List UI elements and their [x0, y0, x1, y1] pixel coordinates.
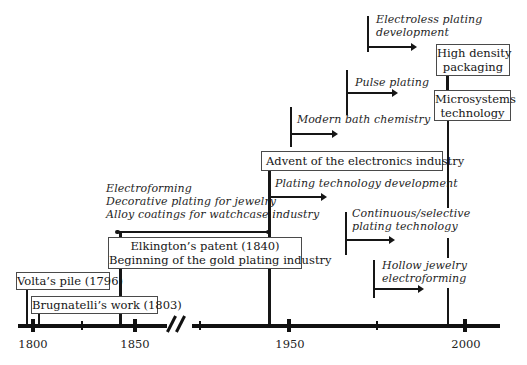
- timeline-axis: [18, 324, 500, 328]
- modern-bath-label: Modern bath chemistry: [297, 113, 430, 126]
- microsystems-technology-box: Microsystems technology: [434, 90, 511, 121]
- microsystems-box-line2: technology: [435, 106, 510, 120]
- pulse-label-line1: Pulse plating: [355, 76, 429, 89]
- electroforming-label: Electroforming Decorative plating for je…: [106, 182, 319, 221]
- axis-label-1950: 1950: [270, 337, 310, 351]
- hollow-label-line2: electroforming: [382, 272, 467, 285]
- modern-bath-label-line1: Modern bath chemistry: [297, 113, 430, 126]
- elkington-patent-box: Elkington’s patent (1840) Beginning of t…: [108, 237, 302, 269]
- axis-tick-1800: [31, 319, 35, 332]
- continuous-arrow: [346, 239, 390, 241]
- electroforming-label-line1: Electroforming: [106, 182, 319, 195]
- axis-tick-1850: [133, 319, 137, 332]
- continuous-marker-line: [345, 212, 347, 255]
- electroforming-range-start-dot: [115, 230, 120, 235]
- electroless-arrow: [368, 46, 412, 48]
- continuous-label: Continuous/selective plating technology: [352, 207, 470, 233]
- microsystems-box-line1: Microsystems: [435, 92, 510, 106]
- continuous-label-line2: plating technology: [352, 220, 470, 233]
- modern-bath-marker-line: [290, 107, 292, 147]
- electroless-label-line2: development: [376, 26, 482, 39]
- volta-box-line1: Volta’s pile (1796): [17, 274, 109, 288]
- brugnatelli-box-line1: Brugnatelli’s work (1803): [32, 298, 157, 312]
- pulse-arrow: [347, 92, 393, 94]
- modern-bath-arrow: [291, 133, 333, 135]
- high-density-packaging-box: High density packaging: [436, 44, 510, 76]
- hollow-label: Hollow jewelry electroforming: [382, 259, 467, 285]
- axis-label-1800: 1800: [13, 337, 53, 351]
- elkington-box-line2: Beginning of the gold plating industry: [109, 253, 301, 267]
- microsystems-event-line-seg3: [447, 288, 449, 325]
- advent-box-line1: Advent of the electronics industry: [266, 154, 442, 168]
- axis-minor-tick-1900: [199, 321, 201, 330]
- electroforming-range-line: [118, 231, 271, 233]
- axis-label-1850: 1850: [115, 337, 155, 351]
- microsystems-event-line-seg2: [447, 238, 449, 258]
- electroforming-label-line2: Decorative plating for jewelry: [106, 195, 319, 208]
- plating-history-timeline-figure: Electroless plating development Pulse pl…: [0, 0, 527, 365]
- elkington-box-line1: Elkington’s patent (1840): [109, 239, 301, 253]
- hollow-arrow: [374, 288, 419, 290]
- electroforming-label-line3: Alloy coatings for watchcase industry: [106, 208, 319, 221]
- hollow-marker-line: [373, 260, 375, 298]
- high-density-box-line1: High density: [437, 46, 509, 60]
- highdensity-microsystems-connector-line: [446, 74, 449, 91]
- electroforming-range-end-dot: [266, 230, 271, 235]
- axis-minor-tick-1975: [376, 321, 378, 330]
- volta-event-line: [26, 288, 28, 325]
- electroless-label: Electroless plating development: [376, 13, 482, 39]
- hollow-label-line1: Hollow jewelry: [382, 259, 467, 272]
- electroless-label-line1: Electroless plating: [376, 13, 482, 26]
- advent-electronics-box: Advent of the electronics industry: [261, 151, 443, 171]
- brugnatelli-work-box: Brugnatelli’s work (1803): [31, 296, 158, 314]
- axis-minor-tick-1825: [81, 321, 83, 330]
- high-density-box-line2: packaging: [437, 60, 509, 74]
- axis-label-2000: 2000: [446, 337, 486, 351]
- axis-tick-2000: [463, 319, 467, 332]
- volta-pile-box: Volta’s pile (1796): [16, 272, 110, 290]
- continuous-label-line1: Continuous/selective: [352, 207, 470, 220]
- axis-tick-1950: [287, 319, 291, 332]
- pulse-label: Pulse plating: [355, 76, 429, 89]
